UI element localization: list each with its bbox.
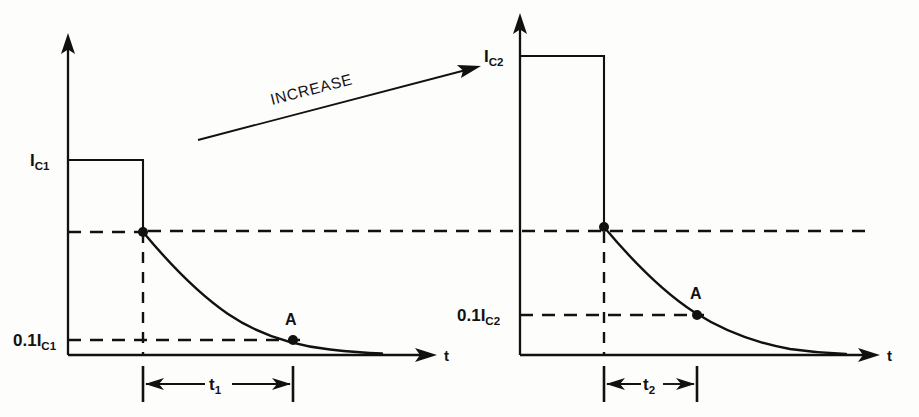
right-x-axis-label: t: [887, 347, 892, 364]
left-decay-start-marker: [138, 227, 148, 237]
left-point-a-marker: [288, 335, 298, 345]
right-threshold-label: 0.1IC2: [457, 306, 500, 327]
left-point-a-label: A: [285, 311, 297, 328]
right-y-axis: [513, 13, 527, 355]
chart-left: IC1 0.1IC1 t A t1: [13, 33, 449, 402]
left-duration-label: t1: [209, 375, 222, 396]
right-decay-start-marker: [599, 222, 609, 232]
increase-annotation: INCREASE: [198, 65, 481, 140]
left-peak-label: IC1: [30, 151, 50, 172]
right-duration-label: t2: [643, 375, 655, 396]
diagram-svg: IC1 0.1IC1 t A t1: [0, 0, 919, 417]
figure-canvas: IC1 0.1IC1 t A t1: [0, 0, 919, 417]
left-y-axis: [61, 33, 75, 355]
left-decay-curve: [143, 232, 382, 354]
right-step-pulse: [520, 56, 604, 227]
right-decay-curve: [604, 227, 846, 354]
left-duration-dimension: t1: [143, 366, 293, 402]
chart-right: IC2 0.1IC2 t A t2: [457, 13, 892, 402]
right-point-a-marker: [692, 310, 702, 320]
left-threshold-label: 0.1IC1: [13, 331, 57, 352]
right-peak-label: IC2: [484, 47, 503, 68]
right-x-axis: [520, 348, 880, 362]
left-x-axis-label: t: [444, 347, 449, 364]
right-duration-dimension: t2: [604, 366, 697, 402]
left-x-axis: [68, 348, 437, 362]
left-step-pulse: [68, 160, 143, 232]
right-point-a-label: A: [690, 285, 702, 302]
